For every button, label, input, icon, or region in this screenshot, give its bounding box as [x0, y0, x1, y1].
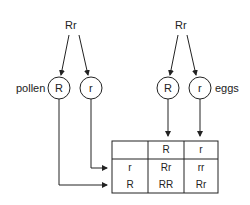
column-header-r: r [184, 144, 218, 156]
pollen-label: pollen [16, 82, 45, 94]
egg-gamete-R: R [164, 82, 172, 94]
pollen-gamete-r: r [89, 82, 93, 94]
row-header-R: R [112, 179, 148, 191]
table-cell: rr [184, 162, 218, 174]
table-cell: RR [148, 179, 184, 191]
pollen-gamete-R: R [55, 82, 63, 94]
egg-parent-genotype: Rr [175, 19, 187, 31]
column-header-R: R [148, 144, 184, 156]
diagram-lines [0, 0, 250, 205]
eggs-label: eggs [215, 82, 239, 94]
table-cell: Rr [184, 179, 218, 191]
table-cell: Rr [148, 162, 184, 174]
row-header-r: r [112, 162, 148, 174]
egg-gamete-r: r [198, 82, 202, 94]
pollen-parent-genotype: Rr [65, 19, 77, 31]
